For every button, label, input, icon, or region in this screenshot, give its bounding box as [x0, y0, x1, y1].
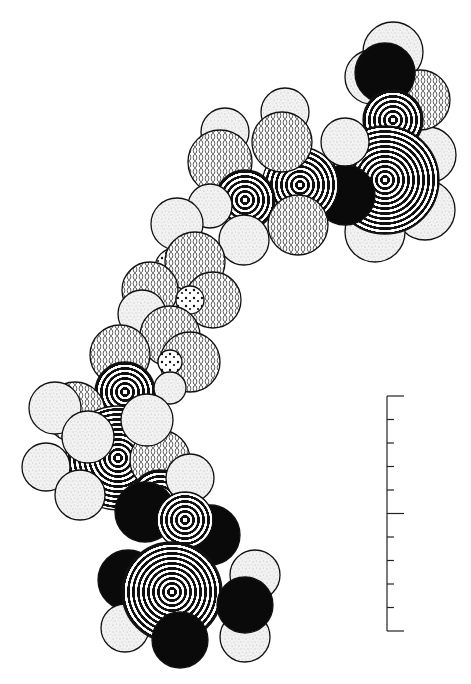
atom-stipple-icon: [55, 470, 105, 520]
atom-layer: [22, 22, 456, 668]
molecular-model-figure: [0, 0, 471, 684]
scale-bar: [387, 396, 404, 631]
atom-black-icon: [152, 612, 208, 668]
atom-stipple-icon: [62, 411, 114, 463]
atom-dots-icon: [158, 350, 182, 374]
atom-rings-icon: [157, 492, 213, 548]
atom-stipple-icon: [219, 215, 269, 265]
atom-black-icon: [217, 577, 273, 633]
atom-lattice-icon: [268, 195, 328, 255]
atom-stipple-icon: [121, 394, 173, 446]
atom-lattice-icon: [252, 112, 312, 172]
